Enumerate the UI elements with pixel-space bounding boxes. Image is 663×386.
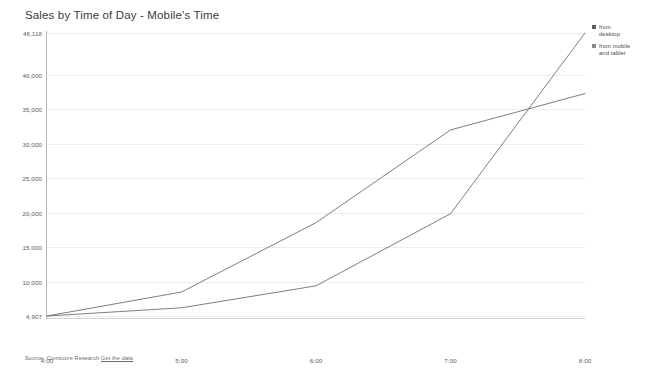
x-axis-line: [46, 318, 586, 319]
series-line-from-mobile-and-tablet: [47, 94, 585, 316]
series-line-from-desktop: [47, 33, 585, 316]
y-tick-label: 35,000: [22, 106, 42, 113]
legend-label-line1: from: [599, 24, 611, 30]
y-tick-label: 46,118: [23, 30, 42, 37]
y-tick-label: 10,000: [22, 279, 42, 286]
x-tick-label: 7:00: [444, 357, 456, 364]
source-prefix: Source: Comscore Research: [25, 355, 99, 361]
legend-label: from mobileand tablet: [599, 43, 630, 57]
source-note: Source: Comscore Research Get the data: [25, 355, 133, 361]
chart-container: Sales by Time of Day - Mobile's Time 46,…: [0, 0, 663, 386]
plot-area: 46,118 40,000 35,000 30,000 25,000 20,00…: [47, 33, 585, 316]
gridline: [47, 316, 585, 317]
y-tick-label: 15,000: [22, 244, 42, 251]
legend-item-from-desktop[interactable]: fromdesktop: [592, 24, 658, 38]
y-tick-label: 4,907: [26, 313, 42, 320]
y-tick-label: 40,000: [22, 72, 42, 79]
get-the-data-link[interactable]: Get the data: [101, 355, 133, 361]
y-tick-label: 20,000: [22, 210, 42, 217]
legend-label-line1: from mobile: [599, 43, 630, 49]
series-lines: [47, 33, 585, 316]
chart-title: Sales by Time of Day - Mobile's Time: [25, 9, 219, 21]
legend-label-line2: desktop: [599, 31, 620, 37]
legend-swatch-icon: [592, 25, 596, 29]
y-tick-label: 25,000: [22, 175, 42, 182]
legend-label-line2: and tablet: [599, 50, 625, 56]
legend-item-from-mobile-and-tablet[interactable]: from mobileand tablet: [592, 43, 658, 57]
legend-swatch-icon: [592, 44, 596, 48]
chart-legend: fromdesktop from mobileand tablet: [592, 24, 658, 62]
y-tick-label: 30,000: [22, 141, 42, 148]
x-tick-label: 5:00: [175, 357, 187, 364]
x-tick-label: 6:00: [310, 357, 322, 364]
legend-label: fromdesktop: [599, 24, 620, 38]
x-tick-label: 8:00: [579, 357, 591, 364]
